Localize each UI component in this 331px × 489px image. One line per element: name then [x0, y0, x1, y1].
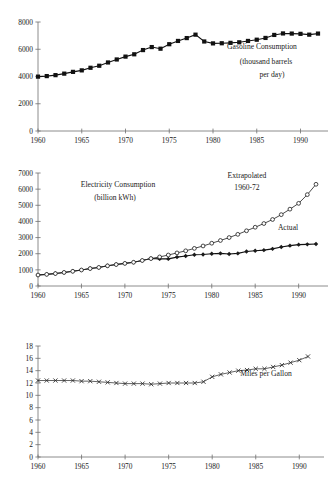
data-point-marker	[305, 193, 309, 197]
data-point-marker	[192, 246, 196, 250]
data-point-marker	[236, 251, 240, 255]
data-point-marker	[88, 66, 92, 70]
x-tick-label: 1980	[204, 291, 219, 300]
x-tick-label: 1960	[31, 462, 46, 471]
y-tick-label: 1000	[18, 266, 33, 275]
data-point-marker	[306, 354, 310, 358]
data-point-marker	[288, 361, 292, 365]
data-point-marker	[132, 52, 136, 56]
data-point-marker	[270, 247, 274, 251]
x-tick-label: 1960	[31, 136, 46, 145]
x-tick-label: 1990	[293, 136, 308, 145]
chart-panel-gasoline: 0200040006000800019601965197019751980198…	[0, 0, 331, 160]
electricity-chart-svg: 0100020003000400050006000700019601965197…	[0, 160, 331, 322]
data-point-marker	[53, 73, 57, 77]
data-point-marker	[183, 254, 187, 258]
y-tick-label: 6000	[18, 45, 33, 54]
data-point-marker	[279, 213, 283, 217]
x-tick-label: 1970	[117, 291, 132, 300]
x-tick-label: 1980	[205, 462, 220, 471]
x-tick-label: 1970	[118, 136, 133, 145]
data-point-marker	[106, 264, 110, 268]
data-point-marker	[290, 31, 294, 35]
y-tick-label: 0	[29, 127, 33, 136]
data-point-marker	[298, 32, 302, 36]
gasoline-annotation-units-2: per day)	[259, 70, 285, 79]
x-tick-label: 1975	[161, 291, 176, 300]
y-tick-label: 18	[26, 342, 34, 351]
data-point-marker	[307, 33, 311, 37]
data-point-marker	[316, 31, 320, 35]
data-point-marker	[80, 268, 84, 272]
data-point-marker	[244, 249, 248, 253]
x-tick-label: 1985	[248, 462, 263, 471]
mpg-annotation-label: Miles per Gallon	[240, 369, 292, 378]
x-tick-label: 1990	[291, 291, 306, 300]
y-tick-label: 7000	[18, 169, 33, 178]
data-point-marker	[210, 252, 214, 256]
y-tick-label: 0	[29, 453, 33, 462]
data-point-marker	[227, 252, 231, 256]
data-point-marker	[175, 251, 179, 255]
data-point-marker	[150, 45, 154, 49]
x-tick-label: 1975	[161, 462, 176, 471]
data-point-marker	[141, 48, 145, 52]
data-point-marker	[202, 39, 206, 43]
gasoline-annotation-title: Gasoline Consumption	[227, 42, 297, 51]
x-tick-label: 1970	[118, 462, 133, 471]
data-point-marker	[184, 249, 188, 253]
data-point-marker	[296, 242, 300, 246]
data-point-marker	[201, 252, 205, 256]
y-tick-label: 2000	[18, 99, 33, 108]
data-point-marker	[279, 245, 283, 249]
y-tick-label: 0	[29, 282, 33, 291]
data-point-marker	[201, 244, 205, 248]
data-point-marker	[193, 33, 197, 37]
data-point-marker	[166, 257, 170, 261]
electricity-annotation-extrapolated-years: 1960-72	[234, 183, 260, 192]
data-point-marker	[262, 248, 266, 252]
data-point-marker	[227, 236, 231, 240]
data-point-marker	[263, 36, 267, 40]
data-point-marker	[123, 55, 127, 59]
data-point-marker	[219, 239, 223, 243]
data-point-marker	[192, 252, 196, 256]
x-tick-label: 1985	[248, 291, 263, 300]
data-point-marker	[272, 33, 276, 37]
data-point-marker	[71, 70, 75, 74]
y-tick-label: 4000	[18, 217, 33, 226]
data-point-marker	[158, 47, 162, 51]
data-point-marker	[62, 72, 66, 76]
data-point-marker	[218, 251, 222, 255]
y-tick-label: 3000	[18, 233, 33, 242]
three-panel-energy-figure: 0200040006000800019601965197019751980198…	[0, 0, 331, 489]
data-point-marker	[211, 41, 215, 45]
data-point-marker	[97, 64, 101, 68]
electricity-annotation-extrapolated: Extrapolated	[228, 171, 267, 180]
data-point-marker	[262, 222, 266, 226]
y-tick-label: 2000	[18, 249, 33, 258]
gasoline-annotation-units-1: (thousand barrels	[240, 57, 293, 66]
y-tick-label: 6	[29, 416, 33, 425]
data-point-marker	[115, 57, 119, 61]
x-tick-label: 1960	[31, 291, 46, 300]
y-tick-label: 8	[29, 403, 33, 412]
data-point-marker	[88, 267, 92, 271]
data-point-marker	[288, 207, 292, 211]
mpg-chart-svg: 0246810121416181960196519701975198019851…	[0, 322, 331, 489]
electricity-annotation-actual: Actual	[278, 223, 298, 232]
x-tick-label: 1975	[162, 136, 177, 145]
data-point-marker	[245, 229, 249, 233]
data-point-marker	[288, 243, 292, 247]
y-tick-label: 16	[26, 354, 34, 363]
data-point-marker	[53, 272, 57, 276]
y-tick-label: 5000	[18, 201, 33, 210]
data-point-marker	[176, 39, 180, 43]
data-point-marker	[271, 218, 275, 222]
y-tick-label: 10	[26, 391, 34, 400]
data-point-marker	[62, 271, 66, 275]
data-point-marker	[210, 241, 214, 245]
data-point-marker	[185, 36, 189, 40]
x-tick-label: 1980	[206, 136, 221, 145]
data-point-marker	[158, 255, 162, 259]
